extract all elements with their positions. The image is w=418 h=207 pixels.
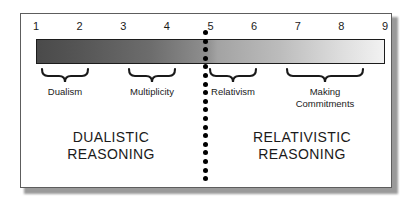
scale-tick-3: 3	[113, 19, 133, 34]
divider-dot	[203, 125, 208, 130]
scale-tick-9: 9	[375, 19, 395, 34]
scale-tick-6: 6	[244, 19, 264, 34]
divider-dot	[203, 168, 208, 173]
divider-dot	[203, 99, 208, 104]
divider-dot	[203, 116, 208, 121]
divider-dot	[203, 90, 208, 95]
scale-tick-4: 4	[157, 19, 177, 34]
scale-tick-row: 1 2 3 4 5 6 7 8 9	[36, 19, 385, 34]
divider-dot	[203, 64, 208, 69]
divider-dot	[203, 159, 208, 164]
region-label-relativistic-reasoning: RELATIVISTIC REASONING	[222, 129, 382, 163]
stage-label-dualism: Dualism	[25, 86, 105, 98]
scale-tick-1: 1	[26, 19, 46, 34]
divider-dot	[203, 82, 208, 87]
divider-dot	[203, 56, 208, 61]
continuum-gradient-bar	[36, 39, 385, 64]
stage-label-making-commitments: Making Commitments	[285, 86, 365, 109]
divider-dot	[203, 176, 208, 181]
divider-dot	[203, 107, 208, 112]
position-5-dotted-divider	[203, 30, 209, 183]
divider-dot	[203, 47, 208, 52]
scale-tick-2: 2	[70, 19, 90, 34]
scale-tick-7: 7	[288, 19, 308, 34]
divider-dot	[203, 73, 208, 78]
divider-dot	[203, 30, 208, 35]
divider-dot	[203, 39, 208, 44]
region-label-dualistic-reasoning: DUALISTIC REASONING	[36, 129, 186, 163]
perry-scheme-diagram: 1 2 3 4 5 6 7 8 9 Dualism Multiplicity R…	[0, 0, 418, 207]
divider-dot	[203, 133, 208, 138]
divider-dot	[203, 150, 208, 155]
divider-dot	[203, 142, 208, 147]
stage-label-multiplicity: Multiplicity	[112, 86, 192, 98]
scale-tick-8: 8	[331, 19, 351, 34]
